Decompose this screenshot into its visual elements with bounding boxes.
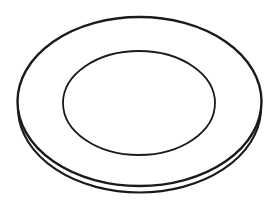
plate-drawing bbox=[0, 0, 279, 213]
plate-illustration bbox=[0, 0, 279, 213]
plate-outer-rim bbox=[18, 17, 262, 186]
